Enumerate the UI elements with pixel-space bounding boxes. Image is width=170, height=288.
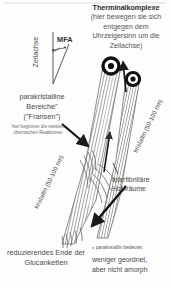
paracrystalline-note: hier beginnen die meisten chemischen Rea… <box>2 124 74 136</box>
reducing-end-label: reduzierendes Ende der Glucanketten <box>3 248 89 267</box>
footnote-small: parakristallin bedeutet: <box>96 245 170 250</box>
diagram-canvas: Therminalkomplexe (hier bewegen sie sich… <box>0 0 170 288</box>
footnote-line1: weniger geordnet, <box>92 256 170 264</box>
footnote-star: * <box>92 246 94 252</box>
title-subtitle: (hier bewegen sie sich entgegen dem Uhrz… <box>82 13 170 51</box>
page-title: Therminalkomplexe <box>84 4 168 12</box>
paracrystalline-label-line3: ("Fransen") <box>2 113 82 121</box>
cell-axis-label: Zellachse <box>32 30 40 74</box>
interfibrillar-label: interfibrilläre Hohlräume <box>112 175 170 194</box>
footnote-line2: aber nicht amorph <box>92 266 170 274</box>
terminal-complex-left <box>103 58 119 74</box>
paracrystalline-label-line1: parakristalline <box>2 93 82 101</box>
paracrystalline-label-line2: Bereiche" <box>2 103 82 111</box>
terminal-complex-right <box>126 72 139 85</box>
mfa-label: MFA <box>57 36 73 44</box>
